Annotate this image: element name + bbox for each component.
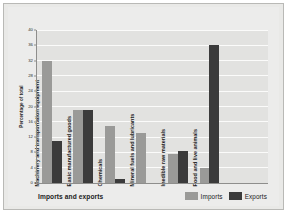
category-label: Inedible raw materials xyxy=(161,129,166,186)
y-axis-title: Percentage of total xyxy=(17,30,25,183)
chart-panel: Percentage of total 0481216202428323640M… xyxy=(8,7,279,206)
y-axis-tick-label: 24 xyxy=(28,89,33,93)
legend-swatch-imports xyxy=(185,192,198,200)
gridline xyxy=(36,91,268,92)
y-axis-tick-label: 28 xyxy=(28,74,33,78)
gridline xyxy=(36,60,268,61)
gridline xyxy=(36,30,268,31)
legend-label-exports: Exports xyxy=(245,193,267,200)
chart-title: Imports and exports xyxy=(38,193,103,200)
bar-imports xyxy=(73,110,83,183)
category-label: Basic manufactured goods xyxy=(66,116,71,186)
category-label: Food and live animals xyxy=(193,129,198,186)
bar-exports xyxy=(83,110,93,183)
legend-swatch-exports xyxy=(229,192,242,200)
category-label: Mineral fuels and lubricants xyxy=(129,114,134,187)
chart-figure: Percentage of total 0481216202428323640M… xyxy=(0,0,287,213)
bar-imports xyxy=(136,133,146,183)
chart-legend: Imports Exports xyxy=(185,192,267,200)
y-axis-tick-label: 40 xyxy=(28,28,33,32)
bar-imports xyxy=(168,154,178,183)
y-axis-tick-label: 12 xyxy=(28,135,33,139)
x-axis-line xyxy=(36,183,268,184)
legend-label-imports: Imports xyxy=(201,193,223,200)
bar-exports xyxy=(178,151,188,184)
y-axis-tick-label: 32 xyxy=(28,58,33,62)
plot-area: 0481216202428323640Machinery and transpo… xyxy=(36,30,268,183)
bar-exports xyxy=(52,141,62,183)
legend-item-imports[interactable]: Imports xyxy=(185,192,223,200)
gridline xyxy=(36,45,268,46)
legend-item-exports[interactable]: Exports xyxy=(229,192,267,200)
bar-imports xyxy=(200,168,210,183)
y-axis-line xyxy=(36,30,37,184)
y-axis-tick-label: 36 xyxy=(28,43,33,47)
bar-imports xyxy=(105,126,115,183)
bar-exports xyxy=(209,45,219,183)
y-axis-tick-label: 20 xyxy=(28,104,33,108)
y-axis-tick-label: 16 xyxy=(28,120,33,124)
gridline xyxy=(36,75,268,76)
gridline xyxy=(36,106,268,107)
bar-imports xyxy=(42,61,52,183)
